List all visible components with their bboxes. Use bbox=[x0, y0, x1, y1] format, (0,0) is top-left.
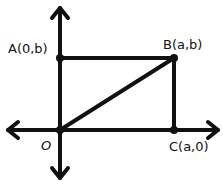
label-a: A(0,b) bbox=[8, 42, 48, 55]
point-c bbox=[170, 126, 178, 134]
point-b bbox=[170, 54, 178, 62]
point-o bbox=[56, 126, 64, 134]
diagonal-o-b bbox=[60, 58, 174, 130]
point-a bbox=[56, 54, 64, 62]
label-c: C(a,0) bbox=[169, 140, 209, 153]
label-o: O bbox=[41, 139, 51, 152]
label-b: B(a,b) bbox=[163, 38, 202, 51]
diagram-canvas: A(0,b) B(a,b) C(a,0) O bbox=[0, 0, 223, 184]
coordinate-diagram bbox=[0, 0, 223, 184]
